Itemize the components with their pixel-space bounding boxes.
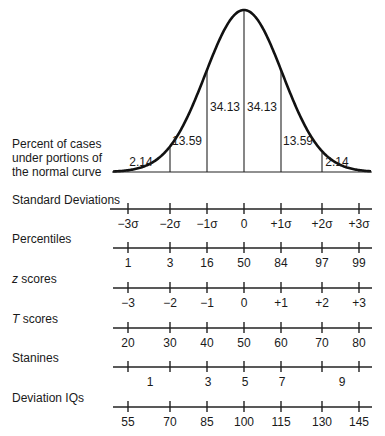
stanine-label: 9	[339, 375, 346, 389]
segment-percent-label: 13.59	[172, 134, 202, 148]
scale-tick-label: 80	[352, 336, 366, 350]
scale-tick-label: 16	[200, 256, 214, 270]
scale-tick-label: 84	[274, 256, 288, 270]
score-scales: Standard Deviations−3σ−2σ−1σ0+1σ+2σ+3σPe…	[11, 193, 372, 429]
segment-percent-label: 2.14	[129, 155, 153, 169]
scale-row: T scores20304050607080	[12, 312, 372, 350]
scale-tick-label: 60	[274, 336, 288, 350]
scale-tick-label: 0	[241, 296, 248, 310]
scale-tick-label: +1σ	[270, 217, 292, 231]
scale-tick-label: −3	[121, 296, 135, 310]
stanine-label: 1	[147, 375, 154, 389]
scale-tick-label: 70	[315, 336, 329, 350]
scale-row: Standard Deviations−3σ−2σ−1σ0+1σ+2σ+3σ	[12, 193, 372, 231]
scale-tick-label: 145	[349, 415, 369, 429]
scale-tick-label: 85	[200, 415, 214, 429]
normal-curve-diagram: Percent of cases under portions of the n…	[0, 0, 385, 436]
stanine-label: 7	[279, 375, 286, 389]
curve-label-line: the normal curve	[12, 165, 102, 179]
scale-tick-label: −3σ	[117, 217, 139, 231]
scale-label: Percentiles	[12, 232, 71, 246]
normal-curve	[112, 10, 372, 172]
scale-tick-label: −1σ	[196, 217, 218, 231]
scale-tick-label: +2σ	[311, 217, 333, 231]
scale-tick-label: −2σ	[159, 217, 181, 231]
scale-label: Standard Deviations	[12, 193, 120, 207]
stanine-label: 5	[242, 375, 249, 389]
scale-tick-label: 30	[163, 336, 177, 350]
curve-label-line: under portions of	[12, 151, 103, 165]
scale-tick-label: 20	[121, 336, 135, 350]
scale-tick-label: 100	[234, 415, 254, 429]
scale-row: z scores−3−2−10+1+2+3	[11, 272, 372, 310]
scale-tick-label: 99	[352, 256, 366, 270]
scale-tick-label: 1	[125, 256, 132, 270]
scale-tick-label: 50	[237, 336, 251, 350]
segment-percent-label: 34.13	[210, 100, 240, 114]
scale-tick-label: 55	[121, 415, 135, 429]
curve-label-line: Percent of cases	[12, 137, 101, 151]
scale-tick-label: 97	[315, 256, 329, 270]
scale-tick-label: 40	[200, 336, 214, 350]
bell-curve-line	[113, 10, 371, 172]
scale-tick-label: 50	[237, 256, 251, 270]
diagram-canvas: Percent of cases under portions of the n…	[0, 0, 385, 436]
scale-row: Stanines13579	[12, 351, 372, 389]
scale-tick-label: +2	[315, 296, 329, 310]
scale-tick-label: +3	[352, 296, 366, 310]
segment-labels: 2.1413.5934.1334.1313.592.14	[129, 100, 349, 169]
scale-tick-label: 3	[167, 256, 174, 270]
curve-label: Percent of cases under portions of the n…	[12, 137, 103, 179]
scale-tick-label: 130	[312, 415, 332, 429]
segment-percent-label: 13.59	[283, 134, 313, 148]
scale-label: Deviation IQs	[12, 391, 84, 405]
scale-tick-label: 0	[241, 217, 248, 231]
stanine-label: 3	[205, 375, 212, 389]
scale-row: Percentiles131650849799	[12, 232, 372, 270]
scale-tick-label: 115	[271, 415, 290, 429]
scale-tick-label: −1	[200, 296, 214, 310]
scale-tick-label: 70	[163, 415, 177, 429]
scale-row: Deviation IQs557085100115130145	[12, 391, 372, 429]
scale-tick-label: +1	[274, 296, 288, 310]
scale-label: Stanines	[12, 351, 59, 365]
scale-tick-label: +3σ	[348, 217, 370, 231]
scale-label: z scores	[11, 272, 57, 286]
segment-percent-label: 2.14	[325, 155, 349, 169]
segment-percent-label: 34.13	[247, 100, 277, 114]
scale-tick-label: −2	[163, 296, 177, 310]
scale-label: T scores	[12, 312, 58, 326]
